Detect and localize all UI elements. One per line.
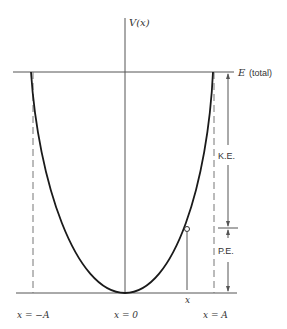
position-point xyxy=(185,227,190,232)
y-axis-label: V(x) xyxy=(129,17,150,28)
energy-label: E xyxy=(237,67,246,78)
kinetic-energy-label: K.E. xyxy=(218,151,235,161)
potential-energy-label: P.E. xyxy=(218,246,234,256)
left-turning-label: x = −A xyxy=(17,310,50,320)
energy-suffix-label: (total) xyxy=(249,68,272,78)
x-position-label: x xyxy=(185,295,190,305)
ke-arrowhead-down xyxy=(226,221,230,227)
center-label: x = 0 xyxy=(114,310,138,320)
right-turning-label: x = A xyxy=(203,310,228,320)
pe-arrowhead-down xyxy=(226,286,230,292)
ke-arrowhead-up xyxy=(226,73,230,79)
potential-curve xyxy=(31,72,213,293)
potential-diagram: V(x) E (total) K.E. P.E. x x = −A x = 0 … xyxy=(0,0,287,329)
